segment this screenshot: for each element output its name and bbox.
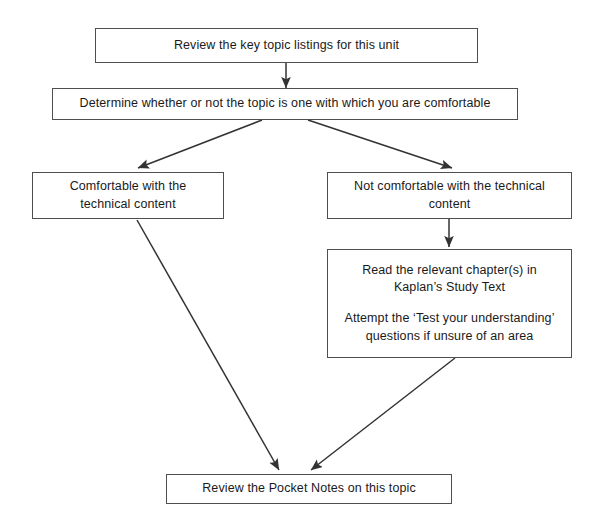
node-text-line: Comfortable with the (70, 178, 187, 196)
node-text-line: technical content (80, 196, 176, 214)
connector-determine-to-not-comfortable (308, 120, 452, 168)
connector-determine-to-comfortable (138, 120, 262, 168)
flowchart-canvas: Review the key topic listings for this u… (0, 0, 601, 532)
connector-read-to-pocket-notes (311, 358, 455, 470)
node-text-line: Review the Pocket Notes on this topic (202, 480, 416, 498)
node-text-line: Review the key topic listings for this u… (174, 37, 399, 55)
node-not-comfortable-with-content[interactable]: Not comfortable with the technical conte… (327, 172, 572, 219)
node-review-pocket-notes[interactable]: Review the Pocket Notes on this topic (166, 474, 452, 504)
node-text-line: Kaplan’s Study Text (394, 279, 505, 297)
node-determine-comfort[interactable]: Determine whether or not the topic is on… (52, 88, 518, 120)
node-text-line: Attempt the ‘Test your understanding’ (344, 310, 554, 328)
node-text-line: Not comfortable with the technical (354, 178, 545, 196)
node-text-line: content (429, 196, 471, 214)
connector-comfortable-to-pocket-notes (137, 220, 279, 470)
node-text-line: Read the relevant chapter(s) in (362, 262, 537, 280)
node-review-key-topic-listings[interactable]: Review the key topic listings for this u… (95, 28, 478, 63)
node-text-line: questions if unsure of an area (366, 328, 534, 346)
node-comfortable-with-content[interactable]: Comfortable with the technical content (32, 172, 224, 219)
node-read-relevant-chapters[interactable]: Read the relevant chapter(s) in Kaplan’s… (327, 249, 572, 358)
node-text-line: Determine whether or not the topic is on… (80, 95, 491, 113)
